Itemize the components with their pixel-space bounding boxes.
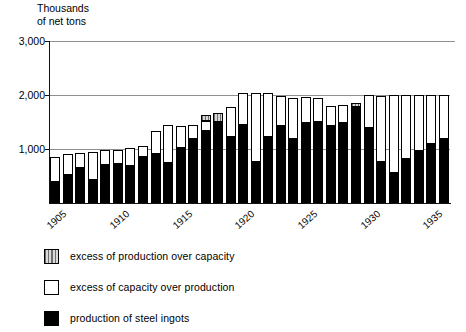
bar-segment-production bbox=[401, 159, 411, 203]
plot-area bbox=[49, 41, 450, 203]
bar-segment-capacity-excess bbox=[176, 126, 186, 148]
legend-item: excess of production over capacity bbox=[44, 245, 234, 267]
y-axis-title: Thousands of net tons bbox=[37, 2, 89, 27]
bar-segment-production bbox=[113, 164, 123, 203]
bar-1915 bbox=[176, 126, 186, 203]
bar-segment-production bbox=[238, 125, 248, 203]
bar-segment-production bbox=[176, 148, 186, 203]
bar-1936 bbox=[439, 95, 449, 203]
bar-segment-production bbox=[301, 123, 311, 203]
bar-segment-capacity-excess bbox=[288, 98, 298, 139]
bar-segment-production-excess bbox=[351, 103, 361, 107]
bar-segment-production bbox=[414, 151, 424, 203]
bar-segment-capacity-excess bbox=[226, 107, 236, 137]
legend-label: excess of capacity over production bbox=[70, 281, 234, 293]
bar-1921 bbox=[251, 93, 261, 203]
y-tick-label-2000: 2,000 bbox=[19, 89, 45, 101]
bar-segment-production-excess bbox=[213, 113, 223, 122]
bar-segment-capacity-excess bbox=[113, 150, 123, 165]
bar-segment-production bbox=[326, 126, 336, 203]
bar-segment-capacity-excess bbox=[163, 125, 173, 163]
bar-segment-production bbox=[338, 123, 348, 203]
bar-segment-production bbox=[288, 139, 298, 203]
bar-segment-production bbox=[226, 137, 236, 203]
bar-1930 bbox=[364, 95, 374, 203]
legend-swatch-capacity-excess-icon bbox=[44, 280, 59, 295]
bar-segment-capacity-excess bbox=[263, 93, 273, 136]
chart-figure: Thousands of net tons 1,0002,0003,000 19… bbox=[0, 0, 466, 332]
bar-segment-production bbox=[151, 154, 161, 203]
bar-1933 bbox=[401, 95, 411, 203]
bar-segment-capacity-excess bbox=[151, 131, 161, 154]
bar-1935 bbox=[426, 95, 436, 203]
y-tick-label-3000: 3,000 bbox=[19, 35, 45, 47]
bar-1925 bbox=[301, 97, 311, 203]
legend-label: production of steel ingots bbox=[70, 312, 189, 324]
bar-1927 bbox=[326, 106, 336, 203]
bar-segment-capacity-excess bbox=[63, 154, 73, 175]
bar-segment-production bbox=[50, 182, 60, 203]
bar-segment-production bbox=[213, 122, 223, 203]
x-axis-tick-labels: 1905191019151920192519301935 bbox=[49, 203, 451, 237]
bar-segment-capacity-excess bbox=[276, 96, 286, 126]
bar-segment-capacity-excess bbox=[426, 95, 436, 144]
bar-1917 bbox=[201, 115, 211, 203]
legend-item: excess of capacity over production bbox=[44, 276, 234, 298]
bar-segment-production bbox=[439, 139, 449, 203]
bar-segment-capacity-excess bbox=[326, 106, 336, 125]
bar-1922 bbox=[263, 93, 273, 203]
bar-segment-capacity-excess bbox=[414, 95, 424, 151]
y-axis-tick-labels: 1,0002,0003,000 bbox=[0, 41, 45, 204]
bar-segment-capacity-excess bbox=[100, 150, 110, 165]
bar-segment-production bbox=[426, 144, 436, 203]
bar-segment-capacity-excess bbox=[88, 152, 98, 181]
y-tick-label-1000: 1,000 bbox=[19, 143, 45, 155]
bar-segment-production bbox=[313, 122, 323, 203]
bar-segment-capacity-excess bbox=[201, 121, 211, 131]
bar-segment-production bbox=[201, 131, 211, 203]
bar-segment-capacity-excess bbox=[364, 95, 374, 128]
bar-1934 bbox=[414, 95, 424, 203]
bar-segment-capacity-excess bbox=[301, 97, 311, 123]
bar-1929 bbox=[351, 103, 361, 203]
bar-1906 bbox=[63, 154, 73, 203]
bar-segment-production bbox=[88, 180, 98, 203]
bar-segment-capacity-excess bbox=[389, 95, 399, 173]
bar-segment-production bbox=[100, 165, 110, 203]
bar-1909 bbox=[100, 150, 110, 203]
legend-swatch-production-icon bbox=[44, 311, 59, 326]
bar-segment-capacity-excess bbox=[338, 105, 348, 123]
bar-segment-capacity-excess bbox=[75, 153, 85, 168]
bar-segment-capacity-excess bbox=[376, 96, 386, 162]
bar-1911 bbox=[125, 148, 135, 203]
bar-1931 bbox=[376, 96, 386, 203]
bar-segment-capacity-excess bbox=[251, 93, 261, 162]
bar-1924 bbox=[288, 98, 298, 203]
bar-1920 bbox=[238, 93, 248, 203]
bar-series-group bbox=[49, 41, 450, 203]
bar-segment-capacity-excess bbox=[238, 93, 248, 125]
bar-1908 bbox=[88, 152, 98, 203]
bar-1910 bbox=[113, 150, 123, 203]
bar-segment-production bbox=[276, 126, 286, 203]
bar-1926 bbox=[313, 98, 323, 203]
bar-1905 bbox=[50, 157, 60, 203]
bar-segment-production bbox=[251, 162, 261, 203]
legend-swatch-production-excess-icon bbox=[44, 249, 59, 264]
bar-segment-capacity-excess bbox=[401, 95, 411, 159]
bar-segment-capacity-excess bbox=[125, 148, 135, 166]
bar-segment-production bbox=[376, 162, 386, 203]
bar-segment-production bbox=[351, 107, 361, 203]
bar-segment-capacity-excess bbox=[138, 146, 148, 157]
bar-1932 bbox=[389, 95, 399, 203]
legend-label: excess of production over capacity bbox=[70, 250, 234, 262]
bar-1916 bbox=[188, 125, 198, 203]
bar-segment-production bbox=[163, 163, 173, 203]
bar-segment-production bbox=[188, 139, 198, 203]
legend-item: production of steel ingots bbox=[44, 307, 234, 329]
bar-segment-capacity-excess bbox=[313, 98, 323, 122]
bar-1914 bbox=[163, 125, 173, 203]
bar-segment-capacity-excess bbox=[188, 125, 198, 140]
bar-1918 bbox=[213, 113, 223, 203]
bar-1919 bbox=[226, 107, 236, 203]
